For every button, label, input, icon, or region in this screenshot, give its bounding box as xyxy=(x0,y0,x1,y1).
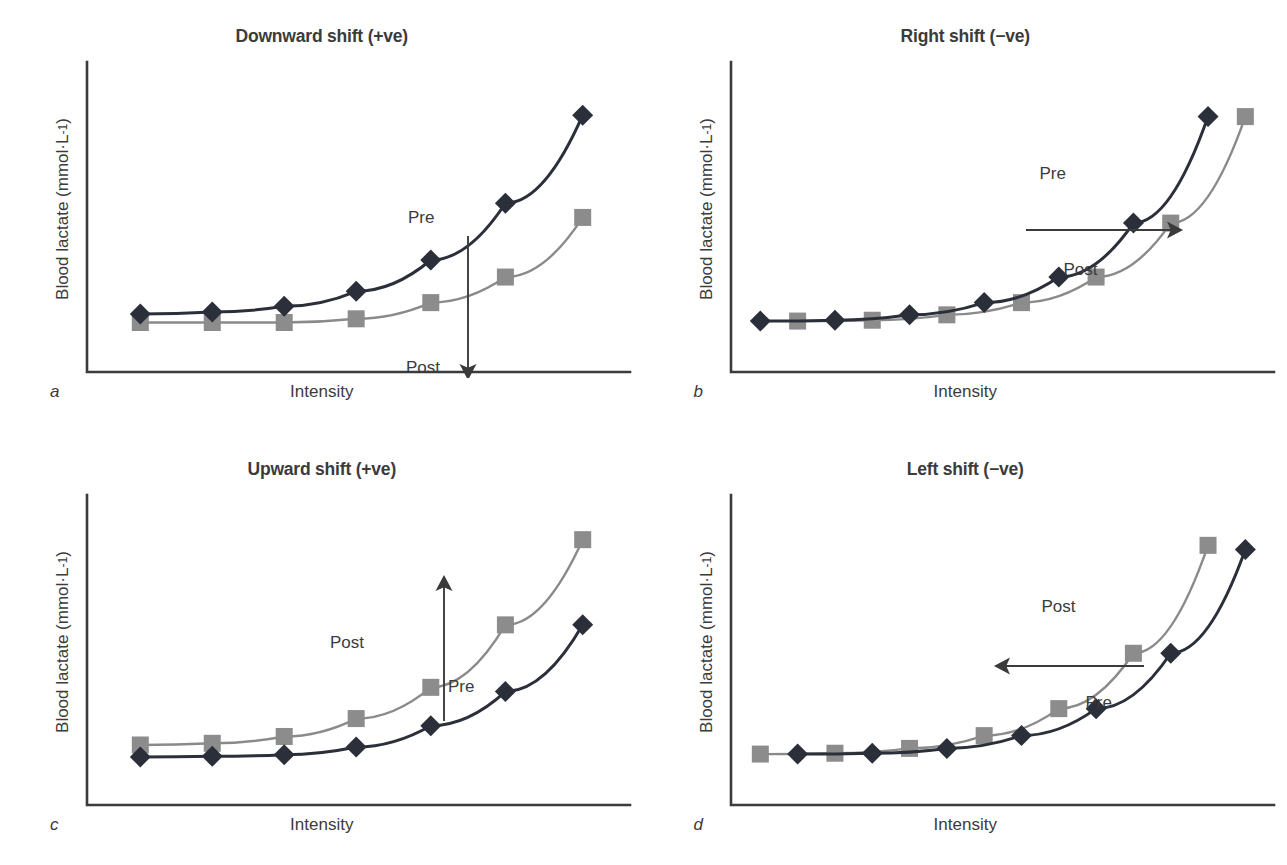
series-label-pre-b: Pre xyxy=(1040,164,1066,184)
x-axis-label-c: Intensity xyxy=(0,815,644,835)
chart-svg-d xyxy=(644,481,1287,811)
data-point-pre-b xyxy=(824,310,845,331)
lactate-curve-figure: Downward shift (+ve)PrePostBlood lactate… xyxy=(0,0,1287,865)
series-line-post-a xyxy=(140,217,582,322)
data-point-post-b xyxy=(938,306,955,323)
plot-area-c: PrePost xyxy=(0,481,644,811)
chart-svg-b xyxy=(644,48,1287,378)
panel-title-d: Left shift (−ve) xyxy=(644,459,1287,480)
series-label-post-d: Post xyxy=(1042,597,1076,617)
plot-area-a: PrePost xyxy=(0,48,644,378)
x-axis-label-b: Intensity xyxy=(644,382,1287,402)
chart-svg-c xyxy=(0,481,644,811)
chart-svg-a xyxy=(0,48,644,378)
panel-letter-a: a xyxy=(50,382,59,402)
data-point-post-d xyxy=(751,745,768,762)
panel-letter-b: b xyxy=(694,382,703,402)
data-point-pre-d xyxy=(936,737,957,758)
chart-panel-b: Right shift (−ve)PrePostBlood lactate (m… xyxy=(644,0,1287,433)
data-point-post-a xyxy=(422,294,439,311)
data-point-pre-c xyxy=(572,614,593,635)
data-point-pre-d xyxy=(1160,642,1181,663)
data-point-post-c xyxy=(276,727,293,744)
data-point-pre-d xyxy=(861,742,882,763)
chart-panel-c: Upward shift (+ve)PrePostBlood lactate (… xyxy=(0,433,644,865)
data-point-post-d xyxy=(901,739,918,756)
data-point-pre-d xyxy=(1010,725,1031,746)
data-point-pre-d xyxy=(1234,539,1255,560)
data-point-pre-c xyxy=(346,736,367,757)
data-point-pre-a xyxy=(572,105,593,126)
data-point-pre-b xyxy=(749,311,770,332)
series-label-pre-d: Pre xyxy=(1086,693,1112,713)
panel-title-a: Downward shift (+ve) xyxy=(0,26,644,47)
series-label-post-c: Post xyxy=(330,633,364,653)
data-point-post-c xyxy=(422,678,439,695)
data-point-pre-a xyxy=(274,296,295,317)
data-point-post-d xyxy=(1124,644,1141,661)
series-line-pre-b xyxy=(760,117,1208,321)
panel-letter-c: c xyxy=(50,815,59,835)
data-point-post-c xyxy=(497,616,514,633)
panel-title-c: Upward shift (+ve) xyxy=(0,459,644,480)
data-point-pre-c xyxy=(420,715,441,736)
series-line-pre-a xyxy=(140,115,582,314)
panel-letter-d: d xyxy=(694,815,703,835)
data-point-post-c xyxy=(574,531,591,548)
x-axis-label-a: Intensity xyxy=(0,382,644,402)
data-point-post-b xyxy=(1236,108,1253,125)
chart-axes-b xyxy=(731,62,1274,372)
x-axis-label-d: Intensity xyxy=(644,815,1287,835)
data-point-pre-b xyxy=(899,304,920,325)
data-point-pre-c xyxy=(274,744,295,765)
data-point-post-a xyxy=(348,310,365,327)
panel-title-b: Right shift (−ve) xyxy=(644,26,1287,47)
data-point-pre-b xyxy=(1197,106,1218,127)
data-point-post-d xyxy=(1050,700,1067,717)
series-label-pre-a: Pre xyxy=(408,208,434,228)
data-point-post-a xyxy=(574,209,591,226)
data-point-post-d xyxy=(1199,536,1216,553)
data-point-pre-a xyxy=(346,281,367,302)
data-point-post-a xyxy=(497,269,514,286)
data-point-post-d xyxy=(975,727,992,744)
series-label-post-b: Post xyxy=(1064,260,1098,280)
plot-area-b: PrePost xyxy=(644,48,1287,378)
data-point-pre-a xyxy=(495,193,516,214)
data-point-post-c xyxy=(348,710,365,727)
chart-axes-d xyxy=(731,495,1274,805)
chart-panel-a: Downward shift (+ve)PrePostBlood lactate… xyxy=(0,0,644,433)
series-label-pre-c: Pre xyxy=(448,677,474,697)
chart-panel-d: Left shift (−ve)PrePostBlood lactate (mm… xyxy=(644,433,1287,865)
series-label-post-a: Post xyxy=(406,358,440,378)
data-point-pre-d xyxy=(787,743,808,764)
plot-area-d: PrePost xyxy=(644,481,1287,811)
